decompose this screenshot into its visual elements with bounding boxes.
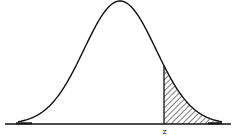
normal-distribution-figure: z <box>0 0 232 140</box>
shaded-tail-area <box>164 66 222 124</box>
normal-curve <box>18 1 222 122</box>
z-label: z <box>163 127 167 136</box>
